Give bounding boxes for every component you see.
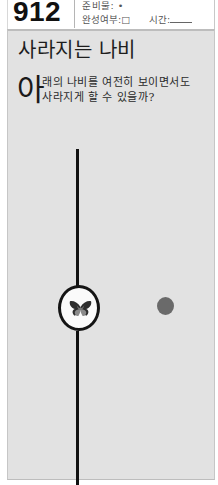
header: 912 준비물: • 완성여부:□ 시간: <box>0 0 218 29</box>
header-divider <box>74 0 75 28</box>
description-line-2: 사라지게 할 수 있을까? <box>42 91 155 104</box>
butterfly-icon <box>69 300 92 318</box>
header-right-border <box>214 0 215 29</box>
puzzle-panel: 사라지는 나비 아 래의 나비를 여전히 보이면서도 사라지게 할 수 있을까? <box>7 29 215 480</box>
time-blank <box>170 14 192 23</box>
puzzle-number: 912 <box>3 0 71 27</box>
dropcap: 아 <box>17 75 45 105</box>
vertical-line-bottom <box>76 331 79 485</box>
puzzle-title: 사라지는 나비 <box>18 38 136 62</box>
prep-label: 준비물: • <box>82 0 124 11</box>
vertical-line-top <box>76 149 79 286</box>
time-label: 시간: <box>149 14 170 25</box>
time-field: 시간: <box>149 14 192 25</box>
dot-icon <box>157 297 174 315</box>
butterfly-circle <box>60 285 96 332</box>
description-line-1: 래의 나비를 여전히 보이면서도 <box>42 76 191 89</box>
completion-label: 완성여부:□ <box>82 14 130 25</box>
circle-frame <box>58 285 100 331</box>
